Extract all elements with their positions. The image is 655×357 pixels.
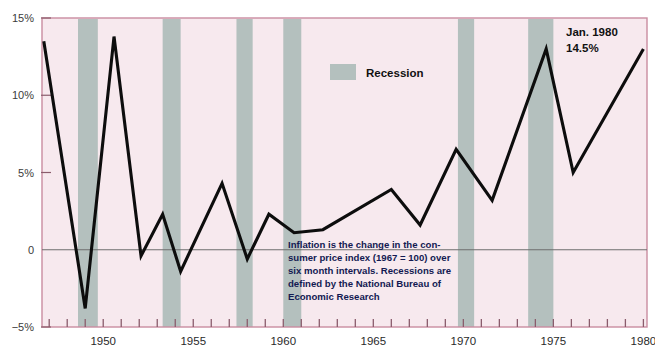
chart-legend: Recession — [330, 64, 424, 80]
legend-label-recession: Recession — [366, 67, 424, 79]
x-tick-label: 1950 — [90, 335, 116, 347]
y-tick-label: 15% — [12, 12, 34, 24]
x-tick-label: 1980 — [631, 335, 655, 347]
note-line-3: six month intervals. Recessions are — [288, 265, 451, 276]
x-tick-label: 1975 — [541, 335, 567, 347]
peak-callout-line-1: Jan. 1980 — [566, 26, 618, 38]
recession-band — [163, 19, 181, 327]
y-tick-label: 0 — [28, 244, 34, 256]
note-line-1: Inflation is the change in the con- — [288, 239, 440, 250]
note-line-4: defined by the National Bureau of — [288, 278, 442, 289]
x-tick-label: 1955 — [180, 335, 206, 347]
legend-swatch-recession — [330, 64, 356, 80]
inflation-recession-chart: 15%10%5%0−5% 195019551960196519701975198… — [0, 0, 655, 357]
y-tick-label: 5% — [18, 167, 34, 179]
recession-band — [236, 19, 252, 327]
chart-canvas: 15%10%5%0−5% 195019551960196519701975198… — [0, 0, 655, 357]
x-tick-label: 1965 — [361, 335, 387, 347]
y-tick-label: 10% — [12, 89, 34, 101]
peak-callout-line-2: 14.5% — [566, 42, 599, 54]
x-tick-label: 1960 — [270, 335, 296, 347]
x-tick-label: 1970 — [451, 335, 477, 347]
note-line-2: sumer price index (1967 = 100) over — [288, 252, 451, 263]
note-line-5: Economic Research — [288, 291, 380, 302]
y-tick-label: −5% — [12, 321, 35, 333]
